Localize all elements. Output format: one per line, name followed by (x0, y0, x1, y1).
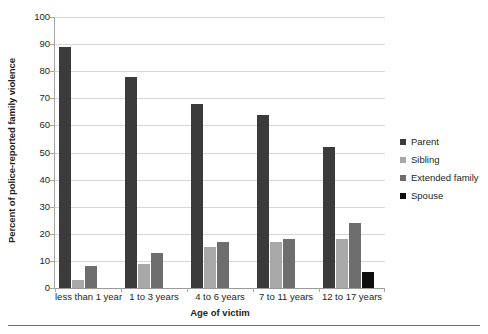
plot-inner (55, 17, 385, 288)
bar-group (55, 17, 121, 288)
bar (270, 242, 282, 288)
x-axis-tick-labels: less than 1 year1 to 3 years4 to 6 years… (55, 292, 385, 306)
bar (336, 239, 348, 288)
x-axis-tick-label: 1 to 3 years (121, 292, 187, 302)
x-axis-tick-label: 4 to 6 years (187, 292, 253, 302)
y-axis-tick-label: 100 (34, 12, 50, 22)
bar-group (187, 17, 253, 288)
legend-item[interactable]: Parent (400, 133, 486, 151)
bar (125, 77, 137, 288)
bar-group (121, 17, 187, 288)
bar (323, 147, 335, 288)
bar (204, 247, 216, 288)
legend-item[interactable]: Sibling (400, 151, 486, 169)
bar (151, 253, 163, 288)
bar (283, 239, 295, 288)
y-axis-tick-label: 60 (39, 121, 50, 131)
y-axis-tick-label: 90 (39, 39, 50, 49)
y-axis-tick-label: 50 (39, 148, 50, 158)
bar (72, 280, 84, 288)
y-axis-tick-label: 20 (39, 229, 50, 239)
legend-swatch-icon (400, 157, 406, 163)
legend-item[interactable]: Spouse (400, 187, 486, 205)
legend-swatch-icon (400, 193, 406, 199)
x-axis-title: Age of victim (55, 307, 385, 318)
y-axis-tick-label: 70 (39, 94, 50, 104)
bar-group (253, 17, 319, 288)
bar (257, 115, 269, 288)
y-axis-tick-label: 40 (39, 175, 50, 185)
legend-swatch-icon (400, 175, 406, 181)
x-axis-tick-label: 12 to 17 years (319, 292, 385, 302)
bar-group (319, 17, 385, 288)
x-axis-tick-label: 7 to 11 years (253, 292, 319, 302)
legend-item[interactable]: Extended family (400, 169, 486, 187)
x-axis-baseline (55, 288, 385, 289)
bar (349, 223, 361, 288)
x-axis-tick-label: less than 1 year (55, 292, 121, 302)
bar (191, 104, 203, 288)
y-axis-tick-labels: 0102030405060708090100 (22, 17, 50, 288)
legend-label: Spouse (411, 191, 443, 201)
y-axis-tick-label: 30 (39, 202, 50, 212)
y-axis-title: Percent of police-reported family violen… (0, 0, 22, 300)
legend-label: Sibling (411, 155, 440, 165)
bar (138, 264, 150, 288)
legend-swatch-icon (400, 139, 406, 145)
legend-label: Parent (411, 137, 439, 147)
plot-area (55, 17, 385, 288)
y-axis-title-text: Percent of police-reported family violen… (6, 58, 17, 243)
bar (217, 242, 229, 288)
y-axis-tick-label: 80 (39, 66, 50, 76)
bottom-divider (8, 325, 480, 326)
y-axis-tick-label: 10 (39, 256, 50, 266)
legend-label: Extended family (411, 173, 479, 183)
bar (85, 266, 97, 288)
bar (362, 272, 374, 288)
legend: ParentSiblingExtended familySpouse (400, 133, 486, 205)
bar-chart-figure: Percent of police-reported family violen… (0, 0, 488, 334)
bar (59, 47, 71, 288)
